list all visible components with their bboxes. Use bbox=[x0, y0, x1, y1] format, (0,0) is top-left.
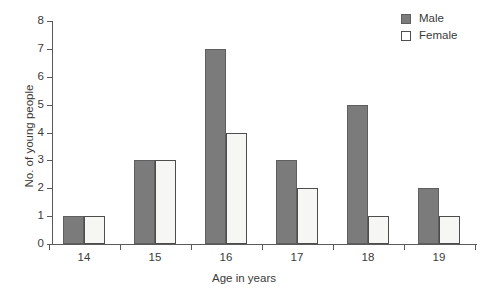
x-tick-label-18: 18 bbox=[348, 252, 388, 264]
bar-female-18 bbox=[368, 216, 389, 244]
y-tick-label: 4 bbox=[0, 127, 44, 139]
bar-male-19 bbox=[418, 188, 439, 244]
bar-male-15 bbox=[134, 160, 155, 244]
bar-female-16 bbox=[226, 133, 247, 245]
legend-swatch-female-icon bbox=[401, 31, 411, 41]
x-tick-mark bbox=[120, 245, 121, 250]
x-tick-label-14: 14 bbox=[64, 252, 104, 264]
bar-female-15 bbox=[155, 160, 176, 244]
legend-swatch-male-icon bbox=[401, 14, 411, 24]
bar-chart: No. of young people 012345678 1415161718… bbox=[0, 0, 488, 290]
x-tick-mark bbox=[475, 245, 476, 250]
bar-male-14 bbox=[63, 216, 84, 244]
bars-layer bbox=[52, 21, 477, 244]
x-tick-mark bbox=[191, 245, 192, 250]
legend-label: Female bbox=[419, 30, 457, 42]
legend-item-female: Female bbox=[401, 27, 487, 44]
x-tick-label-16: 16 bbox=[206, 252, 246, 264]
x-tick-label-17: 17 bbox=[277, 252, 317, 264]
legend-label: Male bbox=[419, 13, 444, 25]
y-tick-label: 2 bbox=[0, 182, 44, 194]
x-tick-label-19: 19 bbox=[419, 252, 459, 264]
bar-female-19 bbox=[439, 216, 460, 244]
x-axis-title: Age in years bbox=[0, 272, 488, 284]
x-tick-mark bbox=[404, 245, 405, 250]
legend-item-male: Male bbox=[401, 10, 487, 27]
y-tick-label: 7 bbox=[0, 43, 44, 55]
y-tick-label: 3 bbox=[0, 154, 44, 166]
y-tick-label: 5 bbox=[0, 99, 44, 111]
x-tick-mark bbox=[49, 245, 50, 250]
y-tick-label: 0 bbox=[0, 238, 44, 250]
bar-male-18 bbox=[347, 105, 368, 244]
x-tick-mark bbox=[262, 245, 263, 250]
bar-male-17 bbox=[276, 160, 297, 244]
bar-female-14 bbox=[84, 216, 105, 244]
bar-male-16 bbox=[205, 49, 226, 244]
chart-legend: MaleFemale bbox=[401, 10, 487, 44]
y-tick-label: 6 bbox=[0, 71, 44, 83]
y-tick-label: 8 bbox=[0, 15, 44, 27]
x-axis-line bbox=[52, 244, 477, 245]
bar-female-17 bbox=[297, 188, 318, 244]
x-tick-label-15: 15 bbox=[135, 252, 175, 264]
y-tick-label: 1 bbox=[0, 210, 44, 222]
x-tick-mark bbox=[333, 245, 334, 250]
